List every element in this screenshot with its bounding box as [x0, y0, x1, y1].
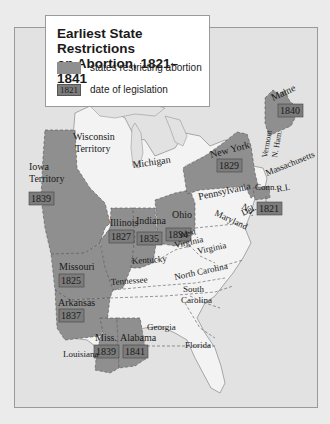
label-south-carolina: South: [183, 284, 205, 294]
svg-text:1835: 1835: [139, 233, 159, 244]
svg-text:1837: 1837: [61, 310, 81, 321]
label-florida: Florida: [185, 340, 211, 350]
label-alabama: Alabama: [120, 332, 157, 343]
legend-title: Earliest State Restrictions on Abortion,…: [57, 26, 207, 86]
label-ohio: Ohio: [172, 209, 192, 220]
date-box-missouri: 1825: [59, 274, 84, 287]
date-box-arkansas: 1837: [59, 309, 84, 322]
label-missouri: Missouri: [59, 261, 95, 272]
lake-huron: [165, 116, 187, 146]
label-wisconsin: Wisconsin: [73, 131, 115, 142]
label-georgia: Georgia: [147, 322, 176, 332]
legend-item-date: 1821 date of legislation: [57, 83, 168, 96]
date-box-new-york: 1829: [217, 159, 242, 172]
legend: Earliest State Restrictions on Abortion,…: [45, 15, 210, 107]
restricting-swatch: [57, 62, 81, 74]
svg-text:1821: 1821: [259, 203, 279, 214]
legend-label-restricting: states restricting abortion: [90, 62, 202, 73]
date-box-alabama: 1841: [123, 345, 148, 358]
label-wisconsin-2: Territory: [75, 143, 110, 154]
svg-text:1841: 1841: [125, 346, 145, 357]
label-connecticut: Conn.: [255, 182, 277, 192]
legend-label-date: date of legislation: [90, 84, 168, 95]
label-illinois: Illinois: [110, 217, 138, 228]
date-box-illinois: 1827: [109, 230, 134, 243]
svg-text:1839: 1839: [96, 346, 116, 357]
legend-item-restricting: states restricting abortion: [57, 61, 202, 74]
date-box-indiana: 1835: [137, 232, 162, 245]
label-indiana: Indiana: [136, 215, 167, 226]
label-rhode-island: R.I.: [276, 182, 291, 194]
label-louisiana: Louisiana: [63, 349, 99, 359]
label-iowa: Iowa: [29, 161, 50, 172]
label-south-carolina-2: Carolina: [181, 295, 212, 305]
legend-title-line1: Earliest State Restrictions: [57, 26, 207, 56]
label-iowa-2: Territory: [29, 173, 64, 184]
date-box-iowa: 1839: [29, 192, 54, 205]
svg-text:1829: 1829: [219, 160, 239, 171]
label-mississippi: Miss.: [95, 332, 117, 343]
svg-text:1827: 1827: [111, 231, 131, 242]
svg-text:1839: 1839: [31, 193, 51, 204]
svg-text:1825: 1825: [61, 275, 81, 286]
date-box-connecticut: 1821: [257, 202, 282, 215]
date-swatch: 1821: [57, 84, 81, 96]
svg-text:1840: 1840: [280, 105, 300, 116]
date-box-maine: 1840: [278, 104, 303, 117]
label-arkansas: Arkansas: [58, 297, 95, 308]
